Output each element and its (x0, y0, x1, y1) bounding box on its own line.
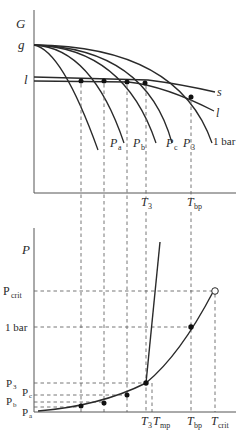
gas-curve-Pb (34, 45, 124, 143)
svg-text:P: P (6, 395, 12, 407)
gas-curve-Pc (34, 45, 156, 143)
svg-text:P: P (165, 136, 174, 150)
condensed-lines (34, 77, 215, 111)
1bar-curve-label: 1 bar (213, 135, 236, 147)
Pc-curve-label: P c (165, 136, 178, 152)
svg-text:P: P (3, 284, 10, 298)
point-Pa-Ta (79, 404, 84, 409)
gas-curve-1bar (34, 45, 212, 143)
point-Pa (79, 79, 84, 84)
svg-text:P: P (132, 136, 141, 150)
bottom-points (79, 324, 194, 408)
T3-bottom-tick-label: T 3 (141, 414, 152, 430)
bottom-panel: P P crit 1 bar P 3 P c P b P a T 3 T mp (3, 228, 236, 430)
normal-boiling-point (188, 324, 193, 329)
Tbp-top-tick-label: T bp (187, 195, 202, 211)
P3-tick-label: P 3 (6, 377, 17, 391)
critical-point (212, 288, 219, 295)
P-axis-label: P (21, 242, 30, 257)
top-panel: G g l s l 1 bar P a P b P c P 3 T 3 T bp (16, 10, 236, 211)
Pb-tick-label: P b (6, 395, 17, 409)
svg-text:3: 3 (148, 421, 152, 430)
Pc-tick-label: P c (22, 386, 32, 400)
G-axis-label: G (16, 16, 26, 31)
svg-text:P: P (6, 377, 12, 389)
phase-boundaries (38, 242, 213, 411)
svg-text:b: b (13, 401, 17, 409)
horizontal-dashed-lines (34, 291, 212, 407)
Pa-curve-label: P a (109, 136, 122, 152)
point-Pc-Tc (125, 393, 130, 398)
gas-curve-Pa (34, 45, 98, 150)
T3-top-tick-label: T 3 (141, 195, 152, 211)
svg-text:3: 3 (13, 383, 17, 391)
svg-text:bp: bp (194, 421, 202, 430)
point-Pc (125, 80, 130, 85)
phase-diagram: G g l s l 1 bar P a P b P c P 3 T 3 T bp (0, 0, 249, 438)
P3-curve-label: P 3 (182, 136, 195, 152)
Pa-tick-label: P a (22, 406, 33, 420)
svg-text:bp: bp (194, 202, 202, 211)
Pb-curve-label: P b (132, 136, 145, 152)
point-P3 (143, 81, 148, 86)
svg-text:c: c (174, 143, 178, 152)
point-Pb-Tb (102, 401, 107, 406)
fusion-curve (146, 242, 160, 383)
point-Pb (102, 79, 107, 84)
Pcrit-tick-label: P crit (3, 284, 22, 300)
svg-text:P: P (22, 386, 28, 398)
svg-text:crit: crit (218, 421, 229, 430)
svg-text:P: P (109, 136, 118, 150)
s-curve-label: s (217, 85, 222, 99)
svg-text:P: P (22, 406, 28, 418)
svg-text:a: a (29, 412, 33, 420)
svg-text:mp: mp (160, 421, 170, 430)
l-curve-label: l (216, 106, 220, 120)
svg-text:b: b (141, 143, 145, 152)
Tcrit-tick-label: T crit (211, 414, 229, 430)
svg-text:a: a (118, 143, 122, 152)
g-label: g (18, 37, 25, 52)
svg-text:3: 3 (148, 202, 152, 211)
l-axis-label: l (24, 72, 28, 87)
svg-text:3: 3 (191, 143, 195, 152)
svg-text:P: P (182, 136, 191, 150)
1bar-tick-label: 1 bar (5, 321, 28, 333)
point-1bar (189, 95, 194, 100)
Tmp-tick-label: T mp (153, 414, 170, 430)
Tbp-bottom-tick-label: T bp (187, 414, 202, 430)
svg-text:c: c (29, 392, 32, 400)
triple-point (143, 380, 148, 385)
svg-text:crit: crit (11, 291, 22, 300)
vaporization-curve (146, 292, 213, 383)
